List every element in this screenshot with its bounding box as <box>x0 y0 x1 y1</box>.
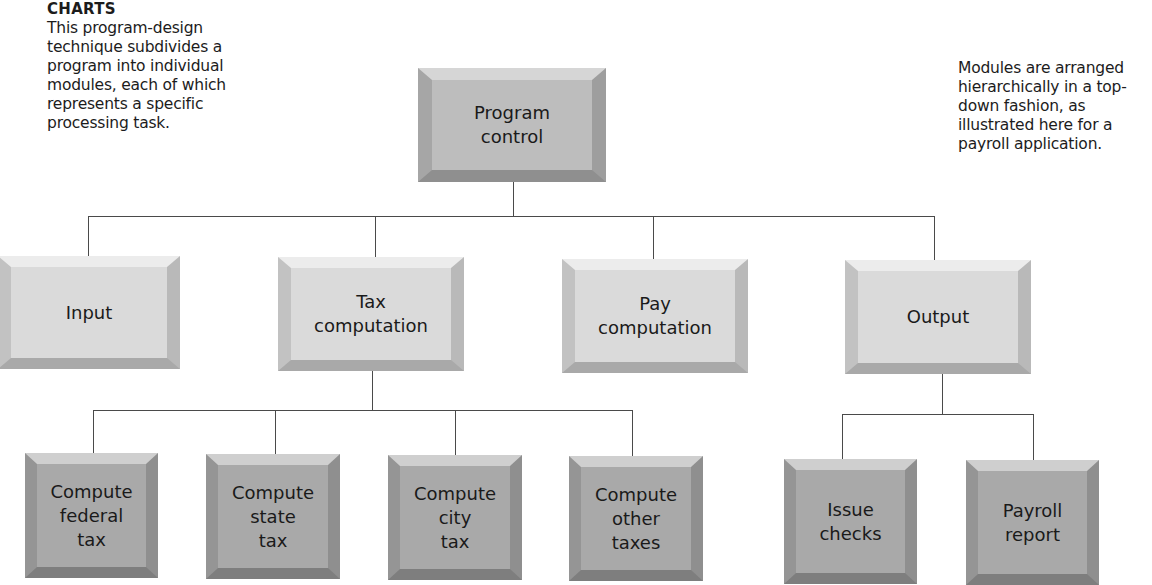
connector-city <box>455 410 456 455</box>
caption-left-text: This program-design technique subdivides… <box>47 19 226 132</box>
right-caption: Modules are arranged hierarchically in a… <box>958 59 1152 154</box>
module-label: Issue checks <box>819 498 881 546</box>
connector-tax-down <box>372 371 373 411</box>
module-label: Output <box>907 305 970 329</box>
connector-input <box>88 216 89 257</box>
module-output: Output <box>845 260 1031 374</box>
module-tax-computation: Tax computation <box>278 257 464 371</box>
module-pay-computation: Pay computation <box>562 259 748 373</box>
module-label: Compute state tax <box>232 481 314 553</box>
module-program-control: Program control <box>418 68 606 182</box>
connector-level2-bus <box>88 216 935 217</box>
module-label: Pay computation <box>598 292 712 340</box>
connector-pay <box>653 216 654 259</box>
connector-output-bus <box>842 414 1034 415</box>
caption-heading: CHARTS <box>47 1 247 18</box>
module-compute-federal-tax: Compute federal tax <box>25 453 158 578</box>
connector-root-down <box>513 182 514 216</box>
connector-other <box>632 410 633 456</box>
module-label: Program control <box>474 101 550 149</box>
module-input: Input <box>0 256 180 369</box>
caption-right-text: Modules are arranged hierarchically in a… <box>958 59 1127 153</box>
connector-tax <box>375 216 376 258</box>
module-label: Input <box>66 301 113 325</box>
module-issue-checks: Issue checks <box>784 459 917 584</box>
connector-payroll-report <box>1033 414 1034 460</box>
module-label: Tax computation <box>314 290 428 338</box>
module-label: Payroll report <box>1003 499 1063 547</box>
connector-federal <box>93 410 94 454</box>
module-compute-state-tax: Compute state tax <box>206 454 340 579</box>
module-label: Compute other taxes <box>595 483 677 555</box>
connector-state <box>275 410 276 454</box>
module-payroll-report: Payroll report <box>966 460 1099 585</box>
connector-tax-bus <box>93 410 633 411</box>
module-compute-other-taxes: Compute other taxes <box>569 456 703 581</box>
connector-issue-checks <box>842 414 843 459</box>
connector-output <box>934 216 935 260</box>
module-label: Compute city tax <box>414 482 496 554</box>
connector-output-down <box>942 374 943 414</box>
module-label: Compute federal tax <box>50 480 132 552</box>
left-caption: CHARTS This program-design technique sub… <box>47 1 247 133</box>
module-compute-city-tax: Compute city tax <box>388 455 522 580</box>
